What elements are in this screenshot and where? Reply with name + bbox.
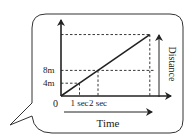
y-tick-label-8m: 8m: [43, 65, 55, 75]
speech-bubble: [10, 14, 183, 133]
y-axis-title: Distance: [167, 47, 178, 83]
x-tick-label-2sec: 2 sec: [89, 98, 107, 108]
diagram-canvas: 0 4m 8m 1 sec 2 sec Time Distance: [0, 0, 190, 140]
x-tick-label-1sec: 1 sec: [70, 98, 88, 108]
origin-label: 0: [53, 98, 58, 109]
y-tick-label-4m: 4m: [43, 78, 55, 88]
x-axis-title: Time: [97, 117, 120, 129]
